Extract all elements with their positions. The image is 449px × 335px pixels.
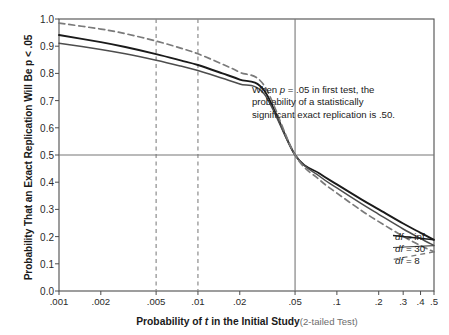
- data-series-group: [59, 23, 434, 252]
- annotation-p05: When p = .05 in first test, the probabil…: [252, 84, 402, 121]
- x-axis-title: Probability of t in the Initial Study(2-…: [59, 316, 435, 327]
- x-tick-label: .3: [399, 296, 407, 307]
- legend-label-df-inf: df = inf: [395, 231, 425, 242]
- y-tick-label: 0.5: [20, 150, 54, 161]
- series-line-0: [59, 35, 434, 240]
- legend-df-italic-1: df: [395, 243, 403, 254]
- y-tick-label: 1.0: [20, 14, 54, 25]
- x-tick-label: .001: [50, 296, 69, 307]
- x-tick-label: .005: [147, 296, 166, 307]
- legend-df-italic-0: df: [395, 231, 403, 242]
- legend-df-italic-2: df: [395, 255, 403, 266]
- y-tick-label: 0.4: [20, 177, 54, 188]
- x-axis-title-subnote: (2-tailed Test): [300, 316, 358, 327]
- x-tick-label: .05: [288, 296, 301, 307]
- y-tick-label: 0.9: [20, 41, 54, 52]
- y-tick-label: 0.3: [20, 204, 54, 215]
- x-tick-marks: [59, 291, 434, 295]
- reference-lines: [59, 19, 434, 291]
- y-tick-label-group: 1.0 0.9 0.8 0.7 0.6 0.5 0.4 0.3 0.2 0.1 …: [16, 0, 54, 335]
- x-tick-label: .002: [91, 296, 110, 307]
- x-tick-label: .1: [333, 296, 341, 307]
- chart-figure: Probability That an Exact Replication Wi…: [0, 0, 449, 335]
- legend-label-df-8: df = 8: [395, 255, 420, 266]
- y-tick-marks: [55, 19, 59, 291]
- legend-df-rest-1: = 30: [403, 243, 425, 254]
- x-tick-label: .02: [233, 296, 246, 307]
- annotation-part1: When: [252, 84, 280, 95]
- x-tick-label: .01: [191, 296, 204, 307]
- y-tick-label: 0.2: [20, 231, 54, 242]
- plot-area: [0, 0, 449, 335]
- x-axis-title-part2: in the Initial Study: [208, 316, 300, 327]
- x-axis-title-part1: Probability of: [136, 316, 205, 327]
- legend-df-rest-2: = 8: [403, 255, 420, 266]
- y-tick-label: 0.1: [20, 258, 54, 269]
- x-tick-label: .4: [417, 296, 425, 307]
- x-tick-label: .2: [375, 296, 383, 307]
- y-tick-label: 0.6: [20, 122, 54, 133]
- x-tick-label: .5: [430, 296, 438, 307]
- y-tick-label: 0.8: [20, 68, 54, 79]
- y-tick-label: 0.7: [20, 95, 54, 106]
- legend-label-df-30: df = 30: [395, 243, 425, 254]
- legend-df-rest-0: = inf: [403, 231, 425, 242]
- series-line-2: [59, 23, 434, 252]
- y-tick-label: 0.0: [20, 286, 54, 297]
